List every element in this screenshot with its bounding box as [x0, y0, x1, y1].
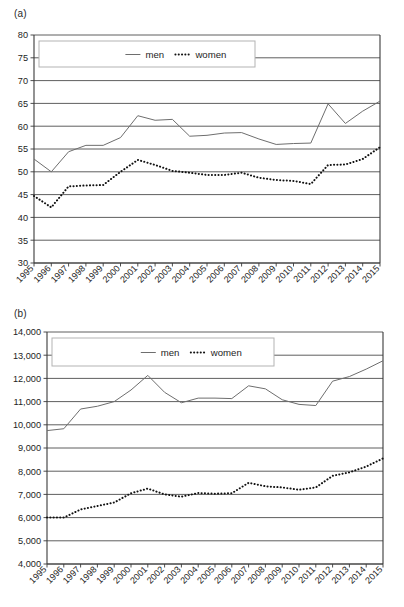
- chart-a-svg: 3035404550556065707580199519961997199819…: [0, 0, 404, 300]
- x-axis-tick-label: 2014: [346, 564, 367, 585]
- panel-a-plot: 3035404550556065707580199519961997199819…: [0, 0, 404, 300]
- x-axis-tick-label: 1996: [44, 564, 65, 585]
- x-axis-tick-label: 2008: [239, 263, 260, 284]
- panel-a: (a) 303540455055606570758019951996199719…: [0, 0, 404, 300]
- x-axis-tick-label: 2010: [279, 564, 300, 585]
- x-axis-tick-label: 2013: [330, 564, 351, 585]
- x-axis-tick-label: 1999: [94, 564, 115, 585]
- y-axis-tick-label: 45: [18, 190, 28, 200]
- figure-container: (a) 303540455055606570758019951996199719…: [0, 0, 404, 607]
- x-axis-tick-label: 2005: [187, 263, 208, 284]
- y-axis-tick-label: 9,000: [18, 443, 41, 453]
- x-axis-tick-label: 2015: [360, 263, 381, 284]
- panel-b: (b) 4,0005,0006,0007,0008,0009,00010,000…: [0, 300, 404, 607]
- series-line-women: [47, 458, 383, 517]
- series-line-women: [34, 147, 380, 207]
- x-axis-tick-label: 2009: [256, 263, 277, 284]
- y-axis-tick-label: 13,000: [13, 351, 41, 361]
- x-axis-tick-label: 2009: [262, 564, 283, 585]
- x-axis-tick-label: 2004: [170, 263, 191, 284]
- series-line-men: [47, 361, 383, 431]
- legend-men-label: men: [145, 49, 164, 60]
- x-axis-tick-label: 2012: [313, 564, 334, 585]
- x-axis-tick-label: 2003: [153, 263, 174, 284]
- x-axis-tick-label: 2003: [162, 564, 183, 585]
- x-axis-tick-label: 1998: [78, 564, 99, 585]
- x-axis-tick-label: 2004: [178, 564, 199, 585]
- x-axis-tick-label: 2001: [128, 564, 149, 585]
- x-axis-tick-label: 2000: [111, 564, 132, 585]
- y-axis-tick-label: 6,000: [18, 513, 41, 523]
- panel-b-plot: 4,0005,0006,0007,0008,0009,00010,00011,0…: [0, 300, 404, 607]
- x-axis-tick-label: 1997: [61, 564, 82, 585]
- x-axis-tick-label: 2010: [274, 263, 295, 284]
- y-axis-tick-label: 75: [18, 53, 28, 63]
- y-axis-tick-label: 7,000: [18, 490, 41, 500]
- y-axis-tick-label: 50: [18, 167, 28, 177]
- y-axis-tick-label: 35: [18, 236, 28, 246]
- x-axis-tick-label: 2006: [204, 263, 225, 284]
- x-axis-tick-label: 1998: [66, 263, 87, 284]
- y-axis-tick-label: 12,000: [13, 374, 41, 384]
- x-axis-tick-label: 2012: [308, 263, 329, 284]
- y-axis-tick-label: 11,000: [14, 397, 41, 407]
- x-axis-tick-label: 2007: [229, 564, 250, 585]
- y-axis-tick-label: 65: [18, 99, 28, 109]
- x-axis-tick-label: 2011: [291, 263, 312, 284]
- y-axis-tick-label: 80: [18, 30, 28, 40]
- x-axis-tick-label: 1996: [31, 263, 52, 284]
- x-axis-tick-label: 2006: [212, 564, 233, 585]
- legend-men-label: men: [161, 347, 180, 358]
- x-axis-tick-label: 2011: [296, 564, 317, 585]
- y-axis-tick-label: 55: [18, 144, 28, 154]
- series-line-men: [34, 101, 380, 172]
- x-axis-tick-label: 2013: [326, 263, 347, 284]
- x-axis-tick-label: 2000: [101, 263, 122, 284]
- legend-women-label: women: [210, 347, 242, 358]
- y-axis-tick-label: 10,000: [13, 420, 41, 430]
- x-axis-tick-label: 2008: [246, 564, 267, 585]
- x-axis-tick-label: 1999: [83, 263, 104, 284]
- x-axis-tick-label: 2002: [145, 564, 166, 585]
- x-axis-tick-label: 1997: [49, 263, 70, 284]
- y-axis-tick-label: 14,000: [13, 327, 41, 337]
- y-axis-tick-label: 5,000: [18, 536, 41, 546]
- x-axis-tick-label: 2005: [195, 564, 216, 585]
- x-axis-tick-label: 2015: [363, 564, 384, 585]
- y-axis-tick-label: 60: [18, 122, 28, 132]
- x-axis-tick-label: 2001: [118, 263, 139, 284]
- chart-b-svg: 4,0005,0006,0007,0008,0009,00010,00011,0…: [0, 300, 404, 607]
- x-axis-tick-label: 2007: [222, 263, 243, 284]
- y-axis-tick-label: 8,000: [18, 467, 41, 477]
- x-axis-tick-label: 2014: [343, 263, 364, 284]
- x-axis-tick-label: 2002: [135, 263, 156, 284]
- y-axis-tick-label: 40: [18, 213, 28, 223]
- legend-women-label: women: [194, 49, 226, 60]
- y-axis-tick-label: 70: [18, 76, 28, 86]
